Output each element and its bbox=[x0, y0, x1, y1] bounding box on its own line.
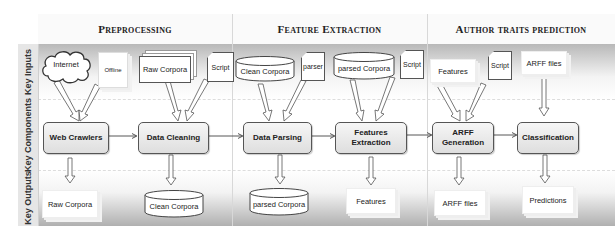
output-arff-files: ARFF files bbox=[434, 190, 486, 216]
lane-label-outputs: Key Outputs bbox=[18, 170, 38, 226]
lane-divider bbox=[18, 99, 615, 100]
input-internet: Internet bbox=[40, 60, 92, 69]
output-features: Features bbox=[346, 188, 396, 214]
input-arff-files: ARFF files bbox=[521, 51, 567, 75]
lane-divider bbox=[18, 170, 615, 171]
input-script-3: Script bbox=[488, 51, 512, 80]
input-raw-corpora: Raw Corpora bbox=[139, 56, 191, 83]
lane-label-column: Key Inputs Key Components Key Outputs bbox=[18, 44, 39, 226]
lane-label-inputs: Key Inputs bbox=[18, 44, 38, 99]
phase-header-preprocessing: Preprocessing bbox=[38, 14, 232, 44]
phase-header-author-traits: Author traits prediction bbox=[427, 14, 615, 44]
input-parser: parser bbox=[301, 52, 325, 81]
lane-label-components: Key Components bbox=[18, 99, 38, 170]
component-web-crawlers: Web Crawlers bbox=[43, 122, 109, 154]
component-data-cleaning: Data Cleaning bbox=[138, 122, 209, 154]
component-arff-generation: ARFFGeneration bbox=[432, 122, 494, 154]
component-classification: Classification bbox=[517, 122, 579, 154]
output-parsed-corpora: parsed Corpora bbox=[249, 188, 309, 216]
input-clean-corpora: Clean Corpora bbox=[235, 56, 295, 82]
output-raw-corpora: Raw Corpora bbox=[42, 190, 98, 218]
component-features-extraction: FeaturesExtraction bbox=[335, 122, 407, 154]
input-parsed-corpora: parsed Corpora bbox=[333, 52, 395, 80]
output-predictions: Predictions bbox=[522, 186, 574, 214]
input-features: Features bbox=[430, 59, 476, 83]
component-data-parsing: Data Parsing bbox=[243, 122, 312, 154]
input-script-1: Script bbox=[207, 52, 234, 82]
phase-divider bbox=[232, 14, 233, 226]
output-clean-corpora: Clean Corpora bbox=[144, 190, 204, 218]
input-script-2: Script bbox=[400, 50, 424, 79]
phase-header-feature-extraction: Feature Extraction bbox=[232, 14, 427, 44]
input-offline: Offline bbox=[98, 52, 128, 88]
phase-divider bbox=[427, 14, 428, 226]
